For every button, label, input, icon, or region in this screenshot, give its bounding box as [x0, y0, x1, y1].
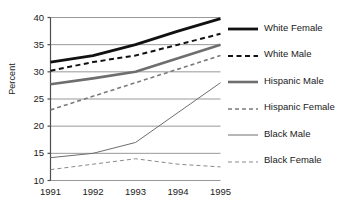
series-line: [51, 45, 221, 85]
legend-line-swatch-icon: [228, 74, 258, 86]
y-tick-label: 10: [20, 175, 44, 186]
gridlines: [51, 18, 221, 181]
legend-item-label: Hispanic Female: [264, 101, 335, 112]
series-line: [51, 56, 221, 110]
y-tick-label: 15: [20, 147, 44, 158]
legend-line-swatch-icon: [228, 127, 258, 139]
series-line: [51, 83, 221, 158]
x-tick-label: 1995: [201, 186, 241, 197]
y-tick-label: 25: [20, 93, 44, 104]
legend-item[interactable]: Hispanic Female: [228, 94, 354, 121]
line-chart: Percent 10152025303540 19911992199319941…: [0, 0, 354, 216]
x-tick-label: 1994: [158, 186, 198, 197]
y-tick-label: 20: [20, 120, 44, 131]
y-tick-label: 40: [20, 12, 44, 23]
legend-item-label: Black Female: [264, 154, 322, 165]
legend-item-label: White Female: [264, 22, 323, 33]
legend-line-swatch-icon: [228, 48, 258, 60]
legend-item[interactable]: Hispanic Male: [228, 67, 354, 94]
legend-item[interactable]: White Male: [228, 41, 354, 68]
series-line: [51, 159, 221, 170]
x-tick-label: 1991: [31, 186, 71, 197]
axis-lines: [48, 18, 51, 181]
legend-item-label: Hispanic Male: [264, 75, 324, 86]
series-lines: [51, 19, 221, 170]
y-tick-label: 35: [20, 39, 44, 50]
legend-line-swatch-icon: [228, 21, 258, 33]
legend-item-label: Black Male: [264, 128, 310, 139]
x-tick-label: 1992: [73, 186, 113, 197]
legend-item[interactable]: Black Male: [228, 120, 354, 147]
legend-item[interactable]: Black Female: [228, 147, 354, 174]
y-tick-label: 30: [20, 66, 44, 77]
legend: White FemaleWhite MaleHispanic MaleHispa…: [228, 14, 354, 173]
x-tick-label: 1993: [116, 186, 156, 197]
legend-item[interactable]: White Female: [228, 14, 354, 41]
legend-line-swatch-icon: [228, 154, 258, 166]
legend-item-label: White Male: [264, 48, 312, 59]
legend-line-swatch-icon: [228, 101, 258, 113]
